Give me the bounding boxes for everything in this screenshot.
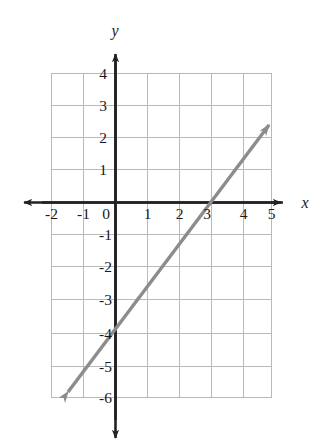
coordinate-plane-graph: -2 -1 0 1 2 3 4 5 4 3 2 1 -1 -2 -3 -4 -5… <box>0 0 325 448</box>
y-tick-label-neg2: -2 <box>99 258 112 275</box>
x-tick-label-1: 1 <box>144 205 152 222</box>
y-tick-label-neg1: -1 <box>99 226 112 243</box>
y-tick-label-neg4: -4 <box>99 325 112 342</box>
x-tick-label-neg2: -2 <box>45 205 58 222</box>
y-tick-label-4: 4 <box>99 65 107 82</box>
x-tick-label-5: 5 <box>268 205 276 222</box>
x-tick-label-zero: 0 <box>102 205 110 222</box>
y-tick-label-neg6: -6 <box>99 389 112 406</box>
y-tick-label-2: 2 <box>99 129 107 146</box>
y-axis-label: y <box>109 22 119 40</box>
graph-background <box>0 0 325 448</box>
x-tick-label-neg1: -1 <box>77 205 90 222</box>
x-axis-label: x <box>300 194 308 211</box>
x-tick-label-3: 3 <box>203 205 211 222</box>
y-tick-label-3: 3 <box>99 97 107 114</box>
x-tick-label-2: 2 <box>176 205 184 222</box>
y-tick-label-neg3: -3 <box>99 291 112 308</box>
y-tick-label-neg5: -5 <box>99 358 112 375</box>
x-tick-label-4: 4 <box>240 205 248 222</box>
y-tick-label-1: 1 <box>99 161 107 178</box>
graph-svg: -2 -1 0 1 2 3 4 5 4 3 2 1 -1 -2 -3 -4 -5… <box>0 0 325 448</box>
